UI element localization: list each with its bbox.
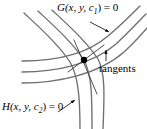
- label-g-prefix: G(x, y, c: [57, 1, 94, 13]
- label-h-prefix: H(x, y, c: [2, 100, 39, 112]
- figure-container: G(x, y, c1) = 0 H(x, y, c2) = 0 tangents: [0, 0, 147, 129]
- leader-line-g: [90, 22, 109, 32]
- curve-g-3: [22, 28, 147, 83]
- label-h-suffix: ) = 0: [42, 100, 63, 112]
- label-tangents: tangents: [99, 63, 136, 74]
- label-g-suffix: ) = 0: [97, 1, 118, 13]
- intersection-point-marker: [81, 57, 87, 63]
- label-h-family: H(x, y, c2) = 0: [2, 101, 63, 115]
- label-g-family: G(x, y, c1) = 0: [57, 2, 118, 16]
